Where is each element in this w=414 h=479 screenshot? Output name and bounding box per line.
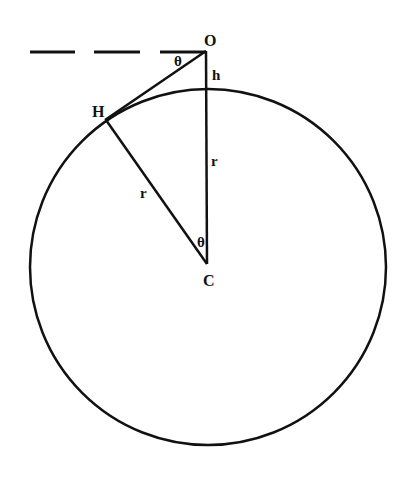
label-r-vertical: r <box>211 153 218 169</box>
line-of-sight-OH <box>105 51 206 120</box>
label-O: O <box>204 32 216 49</box>
radius-HC <box>106 120 207 264</box>
label-theta-center: θ <box>197 234 205 250</box>
label-C: C <box>203 272 215 289</box>
vertical-line-OC <box>206 51 207 264</box>
horizon-diagram: O θ h H r r θ C <box>0 0 414 479</box>
label-r-slant: r <box>140 185 147 201</box>
earth-circle <box>30 89 386 445</box>
label-h: h <box>212 67 221 83</box>
label-theta-top: θ <box>174 53 182 69</box>
label-H: H <box>92 103 105 120</box>
